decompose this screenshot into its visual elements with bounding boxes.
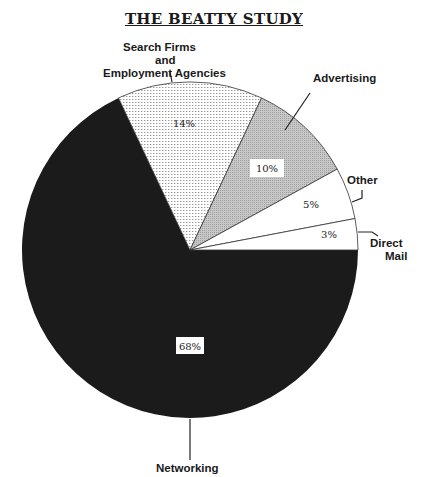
callout-direct-mail: Direct Mail [370,237,407,263]
callout-networking: Networking [156,462,219,475]
label-search-firms: 14% [173,118,195,129]
label-advertising: 10% [256,163,278,174]
callout-advertising: Advertising [313,72,376,85]
callout-other: Other [347,174,378,187]
callout-search-firms: Search Firms and Employment Agencies [120,41,235,80]
label-other: 5% [303,199,319,210]
label-networking: 68% [179,341,201,352]
label-direct-mail: 3% [321,229,337,240]
